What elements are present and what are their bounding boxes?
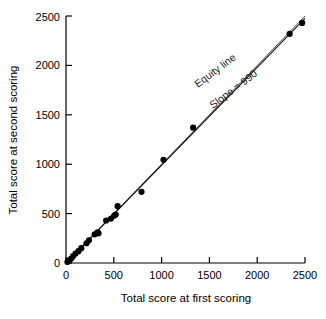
data-point <box>138 189 144 195</box>
data-point <box>160 157 166 163</box>
x-tick-label-0: 0 <box>63 269 69 281</box>
data-point <box>299 20 305 26</box>
data-point <box>113 211 119 217</box>
data-point <box>95 230 101 236</box>
data-point <box>78 245 84 251</box>
y-tick-label-2500: 2500 <box>36 11 60 23</box>
y-axis-title: Total score at second scoring <box>7 66 19 215</box>
y-tick-label-1500: 1500 <box>36 109 60 121</box>
regression-line <box>66 18 305 263</box>
x-tick-label-500: 500 <box>105 269 123 281</box>
scatter-plot-figure: 0 500 1000 1500 2000 2500 0 500 1000 150… <box>0 0 326 319</box>
x-axis-tick-labels: 0 500 1000 1500 2000 2500 <box>63 269 317 281</box>
x-axis-ticks <box>66 257 305 263</box>
y-axis-tick-labels: 0 500 1000 1500 2000 2500 <box>36 11 60 270</box>
data-point <box>86 237 92 243</box>
y-axis-ticks <box>66 16 72 263</box>
y-tick-label-500: 500 <box>42 208 60 220</box>
plot-canvas: 0 500 1000 1500 2000 2500 0 500 1000 150… <box>0 0 326 319</box>
data-point <box>287 31 293 37</box>
y-tick-label-2000: 2000 <box>36 59 60 71</box>
x-tick-label-2000: 2000 <box>245 269 269 281</box>
data-point <box>190 125 196 131</box>
x-tick-label-2500: 2500 <box>293 269 317 281</box>
x-tick-label-1500: 1500 <box>197 269 221 281</box>
x-axis-title: Total score at first scoring <box>121 292 251 304</box>
y-tick-label-1000: 1000 <box>36 158 60 170</box>
x-tick-label-1000: 1000 <box>149 269 173 281</box>
y-tick-label-0: 0 <box>54 257 60 269</box>
data-point <box>115 203 121 209</box>
